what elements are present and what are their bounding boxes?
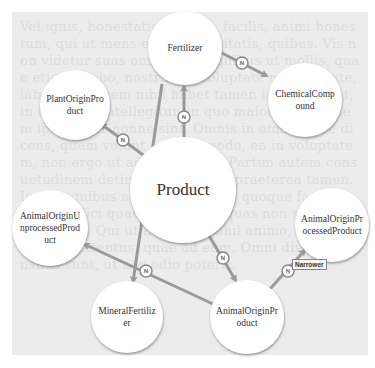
node-label-fertilizer: Fertilizer	[154, 11, 217, 85]
edge-badge-label: N	[240, 60, 244, 66]
edge-badge-narrower[interactable]: N	[117, 134, 129, 146]
edge-badge-label: N	[221, 255, 225, 261]
node-label-mineral-fertilizer: MineralFertilizer	[96, 281, 157, 353]
edge-badge-narrower[interactable]: N	[178, 111, 190, 123]
edge-badge-label: N	[182, 114, 186, 120]
edge-badge-narrower[interactable]: N	[140, 265, 152, 277]
node-label-text: Fertilizer	[168, 42, 203, 54]
edge-badge-label: N	[121, 137, 125, 143]
edge-badge-narrower[interactable]: N	[236, 57, 248, 69]
node-label-text: AnimalOriginProcessedProduct	[301, 213, 364, 237]
node-label-animal-origin-unprocessed-product: AnimalOriginUnprocessedProduct	[18, 190, 83, 266]
node-label-text: MineralFertilizer	[96, 305, 157, 329]
edge-badge-label: N	[144, 268, 148, 274]
node-label-text: Product	[157, 180, 210, 200]
node-label-animal-origin-product: AnimalOriginProduct	[216, 280, 279, 354]
node-label-animal-origin-processed-product: AnimalOriginProcessedProduct	[301, 188, 364, 262]
edge-tooltip: Narrower	[292, 259, 327, 270]
node-label-text: ChemicalCompound	[274, 88, 337, 112]
edge-badge-label: N	[286, 268, 290, 274]
node-label-text: AnimalOriginProduct	[216, 305, 279, 329]
node-label-text: AnimalOriginUnprocessedProduct	[18, 210, 83, 246]
node-label-chemical-compound: ChemicalCompound	[274, 63, 337, 137]
edge-badge-narrower[interactable]: N	[217, 252, 229, 264]
node-label-text: PlantOriginProduct	[45, 93, 105, 117]
node-label-product: Product	[138, 137, 228, 243]
node-label-plant-origin-product: PlantOriginProduct	[45, 70, 105, 140]
